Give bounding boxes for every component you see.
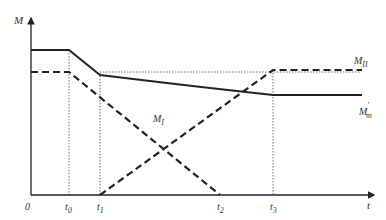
label-m2: MII [353, 55, 368, 69]
label-m1: MI [152, 113, 164, 127]
guide-lines [69, 50, 360, 195]
m2-dashed-curve [100, 70, 362, 195]
tick-t2: t2 [217, 201, 224, 215]
x-axis-label: t [367, 199, 371, 211]
y-axis-label: M [13, 14, 24, 26]
m1-dashed-curve [31, 72, 220, 195]
diagram-canvas: M t 0 t0 t1 t2 t3 MI MII M′m [0, 0, 386, 220]
tick-t3: t3 [270, 201, 277, 215]
tick-t1: t1 [97, 201, 104, 215]
motor-torque-diagram: M t 0 t0 t1 t2 t3 MI MII M′m [0, 0, 386, 220]
label-mm: M′m [358, 101, 372, 120]
tick-t0: t0 [65, 201, 72, 215]
total-torque-curve [31, 50, 362, 95]
origin-label: 0 [25, 201, 30, 212]
